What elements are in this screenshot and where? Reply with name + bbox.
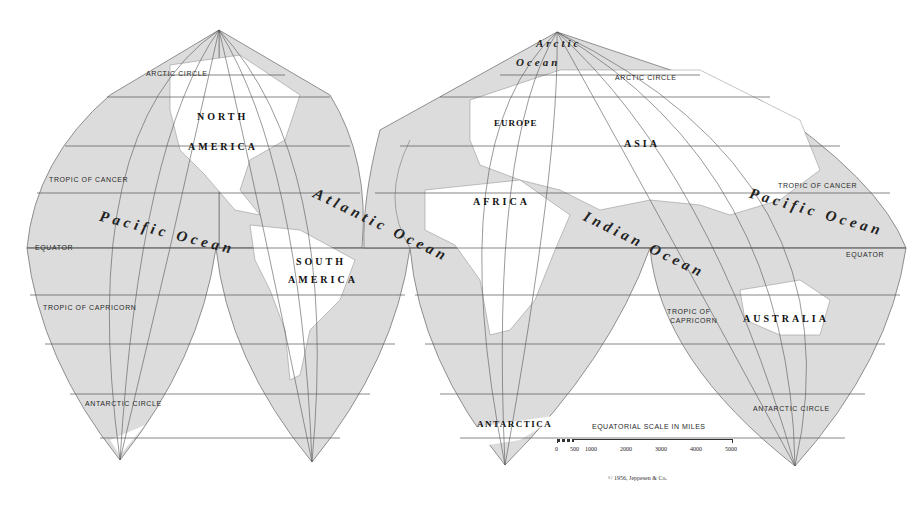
label-australia: AUSTRALIA	[743, 313, 829, 324]
label-north-america-2: AMERICA	[188, 141, 258, 152]
tropic-cancer-label-west: TROPIC OF CANCER	[49, 176, 128, 183]
label-south-america-2: AMERICA	[288, 274, 358, 285]
scale-bar-fill	[557, 439, 574, 442]
scale-tick-3000: 3000	[655, 446, 667, 452]
scale-tick-500: 500	[570, 446, 579, 452]
antarctic-circle-label-west: ANTARCTIC CIRCLE	[85, 400, 162, 407]
tropic-capricorn-label-east-1: TROPIC OF	[667, 308, 711, 315]
scale-tick-4000: 4000	[690, 446, 702, 452]
label-arctic-ocean-2: Ocean	[516, 56, 560, 68]
lobe-pacific-south	[27, 248, 216, 460]
label-africa: AFRICA	[473, 196, 530, 207]
label-south-america-1: SOUTH	[296, 256, 346, 267]
scale-tick-1000: 1000	[585, 446, 597, 452]
scale-title: EQUATORIAL SCALE IN MILES	[592, 423, 706, 430]
equator-label-west: EQUATOR	[35, 244, 73, 251]
world-map	[0, 0, 921, 508]
equator-label-east: EQUATOR	[846, 251, 884, 258]
antarctic-circle-label-east: ANTARCTIC CIRCLE	[753, 405, 830, 412]
scale-tick-2000: 2000	[620, 446, 632, 452]
label-asia: ASIA	[624, 138, 660, 149]
scale-legend: EQUATORIAL SCALE IN MILES 0 500 1000 200…	[555, 423, 740, 463]
label-north-america-1: NORTH	[197, 111, 248, 122]
copyright: © 1956, Jeppesen & Co.	[608, 475, 667, 481]
scale-tick-0: 0	[555, 446, 558, 452]
label-europe: EUROPE	[494, 118, 538, 128]
label-antarctica: ANTARCTICA	[477, 419, 552, 429]
tropic-capricorn-label-west: TROPIC OF CAPRICORN	[43, 304, 136, 311]
label-arctic-ocean-1: Arctic	[536, 37, 582, 49]
tropic-cancer-label-east: TROPIC OF CANCER	[778, 182, 857, 189]
scale-tick-5000: 5000	[725, 446, 737, 452]
arctic-circle-label-west: ARCTIC CIRCLE	[146, 70, 207, 77]
arctic-circle-label-east: ARCTIC CIRCLE	[615, 74, 676, 81]
tropic-capricorn-label-east-2: CAPRICORN	[670, 317, 717, 324]
scale-bar	[557, 439, 733, 443]
